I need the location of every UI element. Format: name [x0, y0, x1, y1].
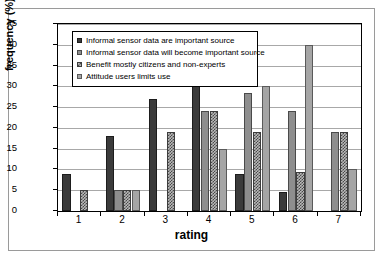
- x-tick-mark-2: [144, 212, 145, 216]
- x-tick-mark-4: [230, 212, 231, 216]
- bar-series-2-category-1: [80, 190, 88, 211]
- x-axis-label: rating: [9, 228, 374, 242]
- x-tick-mark-1: [100, 212, 101, 216]
- bar-series-2-category-3: [167, 132, 175, 211]
- chart-frame: frequency (%) 051015202530354045 1234567…: [8, 8, 375, 251]
- legend-label-0: Informal sensor data are important sourc…: [86, 36, 235, 45]
- bar-series-1-category-6: [288, 111, 296, 211]
- x-tick-label-5: 5: [249, 214, 255, 225]
- x-tick-mark-6: [317, 212, 318, 216]
- x-tick-label-1: 1: [76, 214, 82, 225]
- y-tick-label-20: 20: [0, 122, 17, 131]
- gridline-25: [58, 107, 361, 108]
- x-tick-label-7: 7: [336, 214, 342, 225]
- bar-series-0-category-1: [62, 174, 70, 211]
- x-tick-label-3: 3: [162, 214, 168, 225]
- bar-series-0-category-6: [279, 192, 287, 211]
- bar-series-0-category-5: [235, 174, 243, 211]
- legend-swatch-icon-1: [77, 50, 82, 55]
- y-tick-label-15: 15: [0, 143, 17, 152]
- gridline-0: [58, 211, 361, 212]
- bar-series-1-category-4: [201, 111, 209, 211]
- x-tick-mark-3: [187, 212, 188, 216]
- bar-series-1-category-5: [244, 93, 252, 211]
- bar-series-2-category-5: [253, 132, 261, 211]
- y-tick-label-10: 10: [0, 163, 17, 172]
- legend-swatch-icon-2: [77, 62, 82, 67]
- bar-series-2-category-6: [296, 172, 304, 211]
- bar-series-0-category-4: [192, 78, 200, 211]
- x-tick-label-4: 4: [206, 214, 212, 225]
- bar-series-3-category-6: [305, 45, 313, 211]
- bar-series-3-category-7: [348, 169, 356, 211]
- bar-series-0-category-3: [149, 99, 157, 211]
- bar-series-3-category-5: [262, 86, 270, 211]
- bar-series-2-category-4: [210, 111, 218, 211]
- legend-item-0: Informal sensor data are important sourc…: [77, 35, 253, 46]
- chart-legend: Informal sensor data are important sourc…: [72, 31, 258, 87]
- legend-item-1: Informal sensor data will become importa…: [77, 47, 253, 58]
- x-tick-label-2: 2: [119, 214, 125, 225]
- y-tick-label-0: 0: [0, 205, 17, 214]
- bar-series-2-category-7: [340, 132, 348, 211]
- y-tick-label-25: 25: [0, 101, 17, 110]
- legend-item-2: Benefit mostly citizens and non-experts: [77, 59, 253, 70]
- legend-item-3: Attitude users limits use: [77, 71, 253, 82]
- y-tick-label-40: 40: [0, 39, 17, 48]
- x-tick-mark-7: [360, 212, 361, 216]
- bar-series-1-category-2: [114, 190, 122, 211]
- legend-label-2: Benefit mostly citizens and non-experts: [86, 60, 225, 69]
- y-tick-label-30: 30: [0, 80, 17, 89]
- bar-series-0-category-2: [106, 136, 114, 211]
- y-tick-label-5: 5: [0, 184, 17, 193]
- y-tick-label-35: 35: [0, 60, 17, 69]
- x-tick-mark-5: [273, 212, 274, 216]
- bar-series-3-category-2: [132, 190, 140, 211]
- bar-series-3-category-4: [219, 149, 227, 211]
- bar-series-1-category-7: [331, 132, 339, 211]
- legend-label-1: Informal sensor data will become importa…: [86, 48, 265, 57]
- gridline-45: [58, 24, 361, 25]
- x-tick-mark-0: [57, 212, 58, 216]
- legend-label-3: Attitude users limits use: [86, 72, 170, 81]
- legend-swatch-icon-0: [77, 38, 82, 43]
- legend-swatch-icon-3: [77, 74, 82, 79]
- x-tick-label-6: 6: [292, 214, 298, 225]
- y-tick-label-45: 45: [0, 18, 17, 27]
- bar-series-2-category-2: [123, 190, 131, 211]
